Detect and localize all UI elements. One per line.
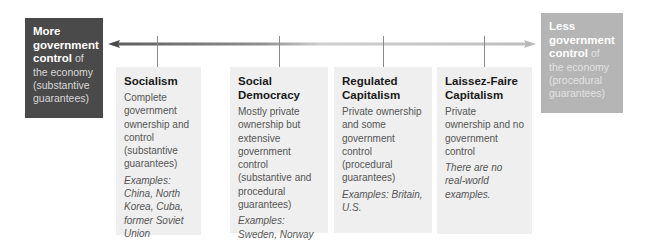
card-description: Private ownership and some government co… [342,105,424,185]
left-end-bold-label: More government control [33,25,99,64]
card-title: Social Democracy [238,74,320,102]
card-examples: Examples: China, North Korea, Cuba, form… [124,174,193,240]
tick-regulated-capitalism [383,36,384,68]
more-government-control-box: More government control of the economy (… [25,18,103,118]
card-description: Private ownership and no government cont… [445,105,524,158]
card-description: Complete government ownership and contro… [124,91,193,171]
card-social-democracy: Social Democracy Mostly private ownershi… [230,67,328,233]
card-socialism: Socialism Complete government ownership … [116,67,201,235]
card-description: Mostly private ownership but extensive g… [238,105,320,211]
card-examples: Examples: Sweden, Norway [238,214,320,241]
less-government-control-box: Less government control of the economy (… [541,13,623,113]
card-examples: There are no real-world examples. [445,161,524,201]
card-title: Socialism [124,74,193,88]
card-title: Laissez-Faire Capitalism [445,74,524,102]
card-laissez-faire-capitalism: Laissez-Faire Capitalism Private ownersh… [437,67,532,234]
card-examples: Examples: Britain, U.S. [342,188,424,215]
card-regulated-capitalism: Regulated Capitalism Private ownership a… [334,67,432,233]
tick-socialism [157,36,158,67]
tick-social-democracy [279,36,280,68]
tick-laissez-faire [484,36,485,67]
card-title: Regulated Capitalism [342,74,424,102]
spectrum-arrow [108,40,536,48]
right-end-bold-label: Less government control [549,20,615,59]
